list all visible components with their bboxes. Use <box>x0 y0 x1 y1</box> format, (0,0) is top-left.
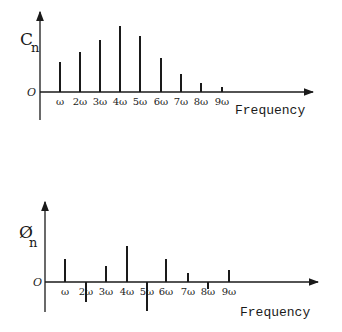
x-axis-label: Frequency <box>240 305 310 320</box>
tick-label: 8ω <box>201 286 216 297</box>
phase-spectrum-chart: Ø n O ω2ω3ω4ω5ω6ω7ω8ω9ω Frequency <box>19 202 318 320</box>
tick-label: ω <box>56 96 64 107</box>
stems <box>65 246 229 311</box>
tick-label: 7ω <box>174 96 189 107</box>
tick-label: 5ω <box>133 96 148 107</box>
amplitude-spectrum-chart: C n O ω2ω3ω4ω5ω6ω7ω8ω9ω Frequency <box>20 12 313 120</box>
stems <box>60 26 222 92</box>
tick-label: 2ω <box>79 286 94 297</box>
tick-label: 3ω <box>99 286 114 297</box>
tick-labels: ω2ω3ω4ω5ω6ω7ω8ω9ω <box>56 96 229 107</box>
origin-label: O <box>27 86 36 99</box>
y-axis-label-subscript: n <box>29 235 38 250</box>
tick-label: 6ω <box>159 286 174 297</box>
tick-label: 2ω <box>73 96 88 107</box>
tick-label: 3ω <box>93 96 108 107</box>
tick-label: 6ω <box>154 96 169 107</box>
tick-label: 7ω <box>181 286 196 297</box>
x-axis-label: Frequency <box>235 103 305 118</box>
tick-labels: ω2ω3ω4ω5ω6ω7ω8ω9ω <box>61 286 236 297</box>
tick-label: ω <box>61 286 69 297</box>
tick-label: 4ω <box>113 96 128 107</box>
tick-label: 9ω <box>222 286 237 297</box>
origin-label: O <box>33 276 42 289</box>
tick-label: 8ω <box>194 96 209 107</box>
y-axis-label-subscript: n <box>31 40 40 55</box>
tick-label: 5ω <box>140 286 155 297</box>
spectrum-figure: C n O ω2ω3ω4ω5ω6ω7ω8ω9ω Frequency Ø n O … <box>0 0 342 332</box>
tick-label: 9ω <box>215 96 230 107</box>
tick-label: 4ω <box>120 286 135 297</box>
